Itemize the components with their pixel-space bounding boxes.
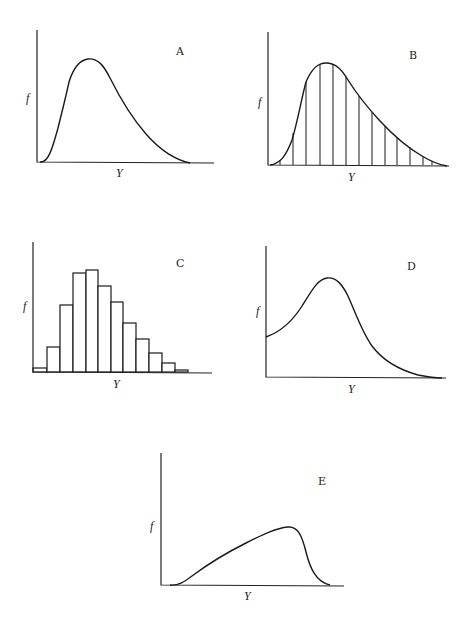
panel-c-ylabel: f (23, 299, 28, 313)
figure: A f Y B f Y (0, 0, 466, 620)
panel-e: E f Y (150, 453, 344, 603)
panel-d-xlabel: Y (348, 382, 356, 396)
panel-b: B f Y (258, 32, 449, 184)
panel-d: D f Y (256, 246, 446, 396)
panel-e-axes (161, 453, 344, 586)
panel-c: C f Y (23, 242, 212, 391)
panel-c-xlabel: Y (113, 377, 121, 391)
panel-b-label: B (409, 49, 417, 62)
panel-d-curve (266, 278, 442, 378)
panel-e-label: E (318, 475, 326, 488)
panel-a-label: A (175, 45, 185, 58)
panel-b-xlabel: Y (348, 170, 356, 184)
panel-e-curve (170, 527, 330, 585)
panel-e-xlabel: Y (244, 589, 252, 603)
panel-b-ordinates (280, 64, 432, 165)
panel-d-axes (266, 246, 446, 378)
panel-c-label: C (176, 257, 184, 270)
panel-d-label: D (407, 260, 416, 273)
panel-b-ylabel: f (258, 95, 263, 109)
panel-a-axes (37, 30, 214, 163)
panel-a-xlabel: Y (116, 166, 124, 180)
panel-e-ylabel: f (150, 519, 155, 533)
panel-c-bars (33, 270, 188, 372)
panel-a-curve (40, 59, 190, 163)
panel-a-ylabel: f (26, 91, 31, 105)
panel-d-ylabel: f (256, 304, 261, 318)
panel-a: A f Y (26, 30, 214, 180)
